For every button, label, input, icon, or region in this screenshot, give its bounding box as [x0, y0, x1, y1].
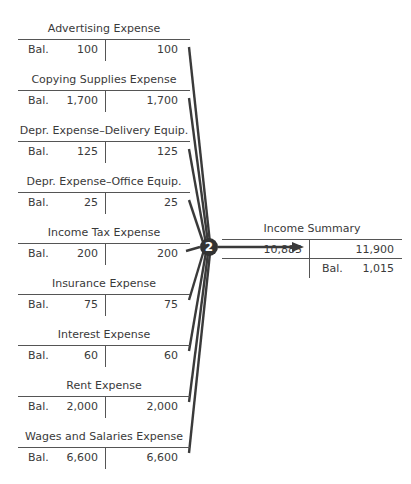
- closing-credit: 100: [157, 43, 178, 56]
- t-account-top-rule: [18, 141, 190, 142]
- account-title: Insurance Expense: [18, 277, 190, 290]
- t-account-top-rule: [18, 447, 190, 448]
- t-account-top-rule: [18, 294, 190, 295]
- t-account-top-rule: [18, 243, 190, 244]
- debit-balance: 100: [58, 43, 98, 56]
- debit-balance: 75: [58, 298, 98, 311]
- closing-credit: 75: [164, 298, 178, 311]
- t-account-divider: [105, 294, 106, 316]
- income-summary-title: Income Summary: [222, 222, 402, 235]
- step-2-badge: 2: [200, 238, 218, 256]
- bal-label: Bal.: [28, 145, 49, 158]
- debit-balance: 6,600: [58, 451, 98, 464]
- bal-label: Bal.: [28, 43, 49, 56]
- income-summary-debit: 10,885: [262, 243, 302, 256]
- debit-balance: 60: [58, 349, 98, 362]
- bal-label: Bal.: [28, 349, 49, 362]
- bal-label: Bal.: [28, 196, 49, 209]
- debit-balance: 1,700: [58, 94, 98, 107]
- debit-balance: 2,000: [58, 400, 98, 413]
- t-account-top-rule: [18, 396, 190, 397]
- t-account-divider: [105, 90, 106, 112]
- bal-label: Bal.: [28, 94, 49, 107]
- income-summary-bal-label: Bal.: [322, 262, 343, 275]
- closing-credit: 200: [157, 247, 178, 260]
- t-account-balance-rule: [222, 258, 402, 259]
- income-summary-balance: 1,015: [363, 262, 395, 275]
- account-title: Rent Expense: [18, 379, 190, 392]
- t-account-divider: [105, 396, 106, 418]
- t-account-top-rule: [18, 90, 190, 91]
- closing-credit: 2,000: [147, 400, 179, 413]
- t-account-divider: [105, 447, 106, 469]
- bal-label: Bal.: [28, 298, 49, 311]
- account-title: Advertising Expense: [18, 22, 190, 35]
- account-title: Wages and Salaries Expense: [18, 430, 190, 443]
- bal-label: Bal.: [28, 400, 49, 413]
- t-account-top-rule: [18, 345, 190, 346]
- t-account-top-rule: [222, 239, 402, 240]
- account-title: Interest Expense: [18, 328, 190, 341]
- closing-credit: 25: [164, 196, 178, 209]
- debit-balance: 25: [58, 196, 98, 209]
- t-account-divider: [105, 192, 106, 214]
- t-account-top-rule: [18, 39, 190, 40]
- debit-balance: 125: [58, 145, 98, 158]
- closing-credit: 60: [164, 349, 178, 362]
- t-account-divider: [105, 345, 106, 367]
- account-title: Depr. Expense–Delivery Equip.: [18, 124, 190, 137]
- account-title: Income Tax Expense: [18, 226, 190, 239]
- account-title: Depr. Expense–Office Equip.: [18, 175, 190, 188]
- debit-balance: 200: [58, 247, 98, 260]
- closing-credit: 6,600: [147, 451, 179, 464]
- closing-credit: 125: [157, 145, 178, 158]
- income-summary-credit: 11,900: [356, 243, 395, 256]
- bal-label: Bal.: [28, 451, 49, 464]
- t-account-top-rule: [18, 192, 190, 193]
- t-account-divider: [309, 239, 310, 278]
- t-account-divider: [105, 39, 106, 61]
- closing-credit: 1,700: [147, 94, 179, 107]
- t-account-divider: [105, 141, 106, 163]
- t-account-divider: [105, 243, 106, 265]
- bal-label: Bal.: [28, 247, 49, 260]
- account-title: Copying Supplies Expense: [18, 73, 190, 86]
